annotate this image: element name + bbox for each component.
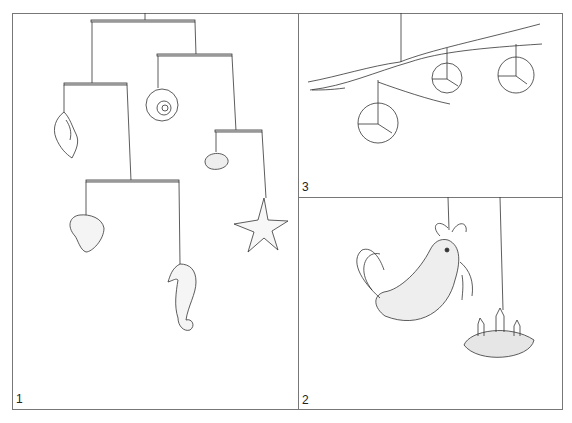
starfish-icon <box>234 198 288 252</box>
nest-icon <box>464 331 534 358</box>
bird-tail-icon <box>357 249 384 298</box>
moon-snail-icon <box>146 89 178 121</box>
seahorse-icon <box>168 264 196 330</box>
illustration <box>0 0 572 423</box>
worm-icon <box>460 262 473 300</box>
whelk-shell-icon <box>54 112 77 158</box>
cockle-shell-icon <box>205 153 228 169</box>
bird-nest-mobile <box>357 197 534 357</box>
branch-icon <box>308 24 542 104</box>
branch-mobile <box>308 13 542 143</box>
bird-crest-icon <box>435 223 466 236</box>
shell-mobile <box>54 13 288 330</box>
scallop-shell-icon <box>70 215 104 252</box>
